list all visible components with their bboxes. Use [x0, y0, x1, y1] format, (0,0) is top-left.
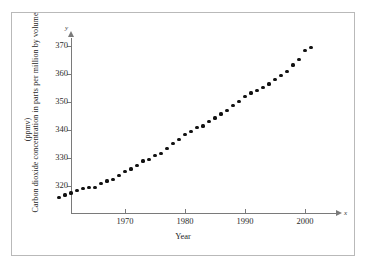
x-tick-mark	[245, 209, 246, 214]
x-tick-mark	[125, 209, 126, 214]
data-point	[273, 78, 276, 81]
data-point	[297, 58, 300, 61]
y-tick-label: 330	[42, 153, 68, 162]
data-point	[231, 104, 234, 107]
y-tick-label: 320	[42, 181, 68, 190]
data-point	[279, 74, 282, 77]
x-axis-line	[71, 213, 336, 214]
data-point	[75, 189, 78, 192]
data-point	[69, 191, 72, 194]
data-point	[177, 138, 180, 141]
y-tick-label: 350	[42, 97, 68, 106]
figure-canvas: y x 320330340350360370 1970198019902000 …	[0, 0, 368, 269]
x-tick-mark	[305, 209, 306, 214]
data-point	[117, 174, 120, 177]
data-point	[309, 46, 312, 49]
data-point	[129, 167, 132, 170]
data-point	[153, 154, 156, 157]
y-tick-label: 360	[42, 69, 68, 78]
data-point	[243, 95, 246, 98]
x-tick-label: 2000	[285, 217, 325, 226]
chart-plot-area: y x 320330340350360370 1970198019902000 …	[0, 0, 368, 269]
data-point	[57, 196, 60, 199]
data-point	[237, 100, 240, 103]
x-tick-label: 1970	[105, 217, 145, 226]
data-point	[111, 178, 114, 181]
data-point	[183, 133, 186, 136]
data-point	[207, 120, 210, 123]
data-point	[303, 49, 306, 52]
data-point	[87, 186, 90, 189]
data-point	[201, 124, 204, 127]
data-point	[195, 126, 198, 129]
x-tick-mark	[185, 209, 186, 214]
data-point	[219, 112, 222, 115]
data-point	[261, 86, 264, 89]
data-point	[93, 186, 96, 189]
y-axis-title: Carbon dioxide concentration in parts pe…	[31, 13, 40, 213]
data-point	[189, 130, 192, 133]
data-point	[135, 164, 138, 167]
data-point	[105, 179, 108, 182]
data-point	[255, 89, 258, 92]
data-point	[225, 109, 228, 112]
y-axis-line	[71, 38, 72, 214]
data-point	[99, 182, 102, 185]
x-tick-label: 1990	[225, 217, 265, 226]
data-point	[249, 91, 252, 94]
y-tick-label: 340	[42, 125, 68, 134]
y-tick-label: 370	[42, 41, 68, 50]
data-point	[171, 142, 174, 145]
data-point	[291, 63, 294, 66]
data-point	[81, 187, 84, 190]
data-point	[267, 82, 270, 85]
data-point	[165, 147, 168, 150]
data-point	[123, 170, 126, 173]
x-axis-arrow-icon	[336, 210, 342, 216]
x-axis-variable-label: x	[344, 209, 347, 217]
data-point	[159, 152, 162, 155]
y-axis-title-units: (ppmv)	[23, 80, 32, 180]
data-point	[141, 159, 144, 162]
y-axis-arrow-icon	[68, 31, 74, 37]
x-tick-label: 1980	[165, 217, 205, 226]
data-point	[285, 70, 288, 73]
data-point	[147, 158, 150, 161]
data-point	[63, 193, 66, 196]
y-axis-variable-label: y	[65, 24, 68, 32]
x-axis-title: Year	[143, 231, 223, 241]
data-point	[213, 116, 216, 119]
